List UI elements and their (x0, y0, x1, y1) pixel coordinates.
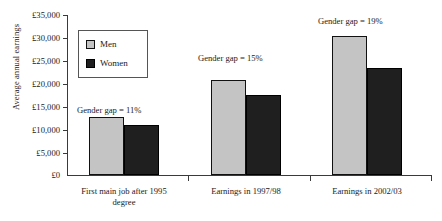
y-tick-label: £30,000 (32, 33, 63, 43)
y-tick-label: £5,000 (36, 148, 63, 158)
x-axis-label-group-2: Earnings in 1997/98 (185, 186, 307, 197)
bar-men-group-3 (332, 36, 367, 175)
x-axis-label-line: Earnings in 2002/03 (306, 186, 428, 197)
y-axis-tick-labels: £35,000 £30,000 £25,000 £20,000 £15,000 … (0, 0, 63, 221)
x-axis-line (67, 175, 432, 176)
legend: Men Women (78, 30, 148, 78)
y-tick-label: £15,000 (32, 102, 63, 112)
x-axis-label-group-1: First main job after 1995 degree (63, 186, 185, 208)
legend-item-women: Women (86, 58, 128, 68)
gender-gap-annotation-group-1: Gender gap = 11% (77, 105, 141, 115)
y-tick-label: £35,000 (32, 10, 63, 20)
x-axis-label-group-3: Earnings in 2002/03 (306, 186, 428, 197)
legend-label-men: Men (100, 39, 117, 49)
y-axis-line (67, 15, 68, 176)
x-axis-label-line: Earnings in 1997/98 (185, 186, 307, 197)
bar-women-group-1 (124, 125, 159, 175)
x-axis-separator-tick (310, 176, 311, 181)
gender-gap-annotation-group-2: Gender gap = 15% (198, 53, 263, 63)
bar-chart: Average annual earnings £35,000 £30,000 … (0, 0, 442, 221)
bar-men-group-1 (89, 117, 124, 175)
x-axis-separator-tick (188, 176, 189, 181)
bar-women-group-2 (246, 95, 281, 175)
x-axis-separator-tick (431, 176, 432, 181)
bar-women-group-3 (367, 68, 402, 175)
x-axis-label-line: First main job after 1995 (63, 186, 185, 197)
y-tick-label: £10,000 (32, 125, 63, 135)
y-tick-label: £20,000 (32, 79, 63, 89)
legend-swatch-men-icon (86, 40, 95, 49)
gender-gap-annotation-group-3: Gender gap = 19% (318, 16, 383, 26)
y-tick-label: £0 (51, 170, 63, 180)
legend-label-women: Women (100, 58, 128, 68)
y-tick-label: £25,000 (32, 56, 63, 66)
legend-swatch-women-icon (86, 59, 95, 68)
bar-men-group-2 (211, 80, 246, 175)
x-axis-label-line: degree (63, 197, 185, 208)
legend-item-men: Men (86, 39, 117, 49)
